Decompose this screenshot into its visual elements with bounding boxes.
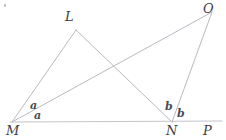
angle-label-a-lower: a — [34, 110, 41, 121]
segment-group — [10, 12, 222, 122]
vertex-label-N: N — [166, 124, 177, 137]
geometry-diagram: L O M N P a a b b — [0, 0, 226, 140]
segment-MP-baseline — [10, 121, 222, 122]
segment-NO — [172, 12, 212, 122]
segment-MO — [12, 12, 212, 122]
segment-LN — [76, 30, 172, 122]
angle-label-b-right: b — [177, 108, 185, 119]
angle-label-b-left: b — [165, 101, 173, 112]
vertex-label-M: M — [6, 124, 19, 137]
segment-ML — [12, 30, 76, 122]
vertex-label-P: P — [203, 124, 212, 137]
vertex-label-O: O — [203, 2, 214, 15]
vertex-label-L: L — [65, 10, 74, 23]
